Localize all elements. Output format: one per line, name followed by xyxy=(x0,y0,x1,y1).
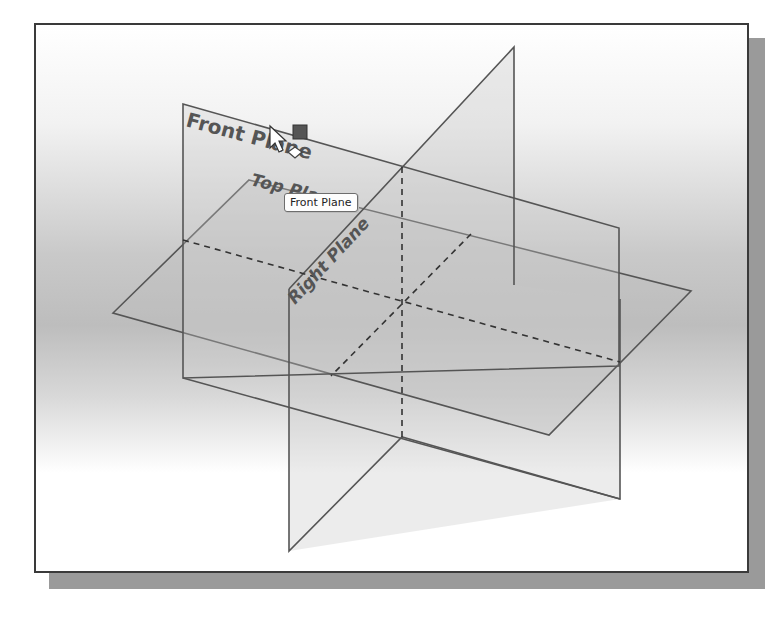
tooltip-text: Front Plane xyxy=(290,196,352,209)
tooltip: Front Plane xyxy=(284,193,358,212)
plane-scene[interactable]: Front Plane Top Plane Right Plane xyxy=(34,23,749,573)
graphics-area[interactable]: Front Plane Top Plane Right Plane Front … xyxy=(34,23,749,573)
plane-select-icon xyxy=(293,125,307,139)
